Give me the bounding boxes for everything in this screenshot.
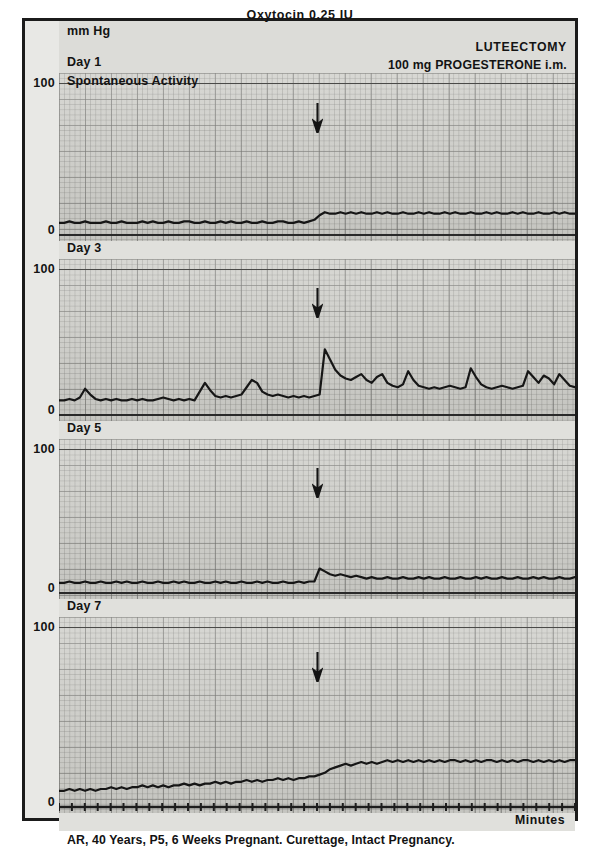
- chart-panel-day-5: [59, 439, 575, 599]
- label-strip-day-5: [59, 599, 575, 617]
- treatment-dose: 100 mg PROGESTERONE i.m.: [388, 59, 567, 72]
- y-tick-100-day-5: 100: [25, 443, 55, 456]
- panel-sublabel-day-1: Spontaneous Activity: [67, 75, 198, 88]
- y-tick-100-day-1: 100: [25, 77, 55, 90]
- y-tick-0-day-5: 0: [25, 582, 55, 595]
- x-axis-ticks: [59, 802, 575, 816]
- baseline-zero-day-5: [59, 592, 575, 594]
- stimulus-label: Oxytocin 0.25 IU: [25, 9, 575, 22]
- chart-panel-day-7: [59, 617, 575, 813]
- rule-100-day-5: [59, 449, 575, 450]
- pressure-trace-day-7: [59, 617, 575, 813]
- baseline-zero-day-1: [59, 234, 575, 236]
- x-axis-label: Minutes: [515, 813, 565, 827]
- y-axis-gutter: [25, 21, 59, 818]
- figure-caption: AR, 40 Years, P5, 6 Weeks Pregnant. Cure…: [67, 833, 571, 847]
- chart-panel-day-3: [59, 259, 575, 421]
- y-tick-0-day-1: 0: [25, 224, 55, 237]
- y-tick-0-day-7: 0: [25, 796, 55, 809]
- label-strip-day-3: [59, 421, 575, 439]
- baseline-zero-day-3: [59, 414, 575, 416]
- units-label: mm Hg: [67, 25, 110, 38]
- y-tick-100-day-7: 100: [25, 621, 55, 634]
- label-strip-day-1: [59, 241, 575, 259]
- chart-panel-day-1: [59, 73, 575, 241]
- panel-label-day-5: Day 5: [67, 422, 101, 435]
- y-tick-0-day-3: 0: [25, 404, 55, 417]
- panel-label-day-3: Day 3: [67, 242, 101, 255]
- panel-label-day-7: Day 7: [67, 600, 101, 613]
- plate-background: mm Hg Oxytocin 0.25 IU LUTEECTOMY 100 mg…: [25, 21, 575, 818]
- pressure-trace-day-5: [59, 439, 575, 599]
- pressure-trace-day-1: [59, 73, 575, 241]
- oxytocin-arrow-icon: [312, 468, 323, 498]
- rule-100-day-3: [59, 269, 575, 270]
- oxytocin-arrow-icon: [312, 652, 323, 682]
- panel-label-day-1: Day 1: [67, 56, 101, 69]
- treatment-title: LUTEECTOMY: [476, 41, 568, 54]
- pressure-recording-figure: mm Hg Oxytocin 0.25 IU LUTEECTOMY 100 mg…: [0, 0, 601, 856]
- figure-plate: mm Hg Oxytocin 0.25 IU LUTEECTOMY 100 mg…: [22, 18, 578, 821]
- rule-100-day-7: [59, 627, 575, 628]
- pressure-trace-day-3: [59, 259, 575, 421]
- y-tick-100-day-3: 100: [25, 263, 55, 276]
- oxytocin-arrow-icon: [312, 288, 323, 318]
- oxytocin-arrow-icon: [312, 103, 323, 133]
